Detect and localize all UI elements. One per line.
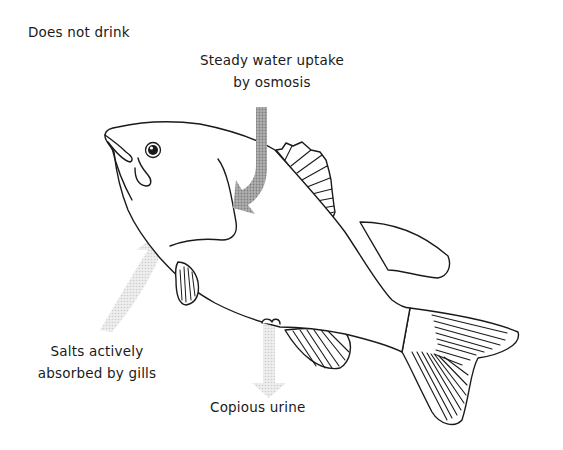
- soft-dorsal-fin: [360, 222, 450, 278]
- tail-fin: [402, 308, 518, 424]
- label-salts-absorbed: Salts actively absorbed by gills: [22, 340, 172, 384]
- anal-fin: [285, 328, 350, 368]
- label-water-uptake: Steady water uptake by osmosis: [174, 49, 370, 93]
- copious-urine-text: Copious urine: [210, 396, 305, 418]
- label-does-not-drink: Does not drink: [28, 21, 130, 43]
- salts-line1: Salts actively: [22, 340, 172, 362]
- eye: [146, 143, 161, 158]
- water-uptake-line1: Steady water uptake: [174, 49, 370, 71]
- does-not-drink-text: Does not drink: [28, 21, 130, 43]
- salts-line2: absorbed by gills: [22, 362, 172, 384]
- water-uptake-line2: by osmosis: [174, 71, 370, 93]
- label-copious-urine: Copious urine: [210, 396, 305, 418]
- urine-arrow: [252, 323, 286, 398]
